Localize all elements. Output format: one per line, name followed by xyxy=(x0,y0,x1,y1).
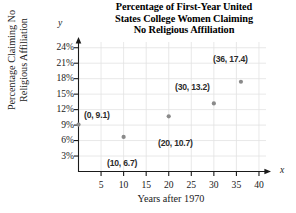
data-point-label: (0, 9.1) xyxy=(84,110,110,120)
x-tick-label: 25 xyxy=(179,179,203,190)
x-tick-label: 40 xyxy=(247,179,271,190)
data-point-label: (20, 10.7) xyxy=(158,138,193,148)
data-point-label: (36, 17.4) xyxy=(213,54,248,64)
x-tick-label: 35 xyxy=(224,179,248,190)
x-tick-label: 5 xyxy=(89,179,113,190)
scatter-chart-figure: Percentage of First-Year United States C… xyxy=(0,0,296,213)
data-point-label: (30, 13.2) xyxy=(175,82,210,92)
x-tick-label: 15 xyxy=(134,179,158,190)
x-axis-letter: x xyxy=(280,164,284,175)
data-point-label: (10, 6.7) xyxy=(107,158,137,168)
y-axis-letter: y xyxy=(58,17,62,28)
x-tick-label: 30 xyxy=(202,179,226,190)
x-tick-label: 20 xyxy=(157,179,181,190)
x-tick-label-group: 510152025303540 xyxy=(0,0,296,213)
x-tick-label: 10 xyxy=(112,179,136,190)
